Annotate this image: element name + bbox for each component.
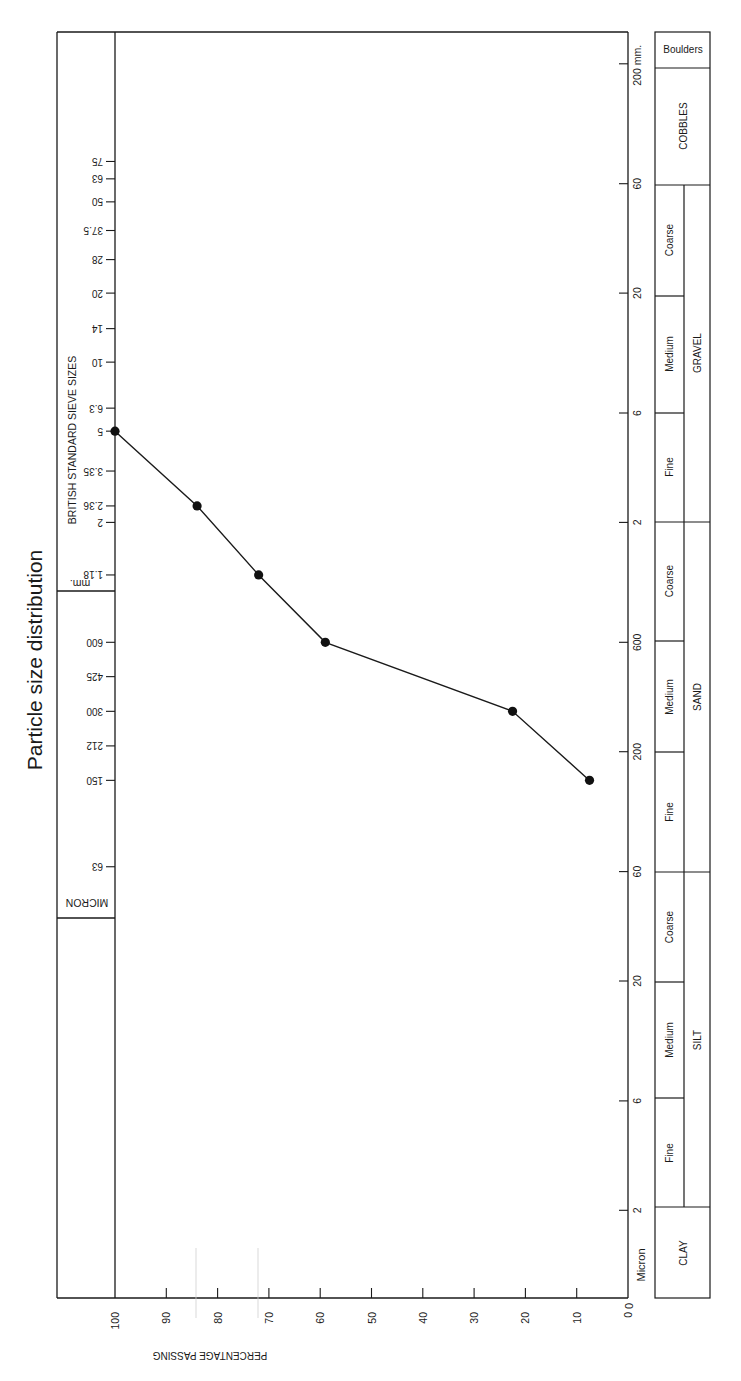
sieve-tick-label: 600 [86,637,103,648]
grading-points [110,427,594,785]
sieve-tick-label: 5 [97,426,103,437]
grading-curve [115,431,590,780]
zero-label: 0 [623,1303,635,1309]
data-point [321,638,330,647]
sieve-tick-label: 50 [91,196,103,207]
pct-tick-label: 30 [468,1312,480,1324]
size-tick-label: 20 [631,287,643,299]
sieve-tick-label: 425 [86,671,103,682]
size-scale-ticks: 200 mm.602062600200602062 [619,45,643,1213]
class-gravel-medium: Medium [664,336,675,372]
class-silt-coarse: Coarse [664,910,675,943]
class-silt: SILT [692,1030,703,1050]
sieve-tick-label: 75 [91,156,103,167]
class-sand-medium: Medium [664,679,675,715]
soil-classification-column [655,32,710,1298]
class-clay: CLAY [678,1240,689,1266]
size-tick-label: 600 [631,633,643,651]
class-cobbles: COBBLES [678,102,689,150]
pct-tick-label: 20 [519,1312,531,1324]
sieve-tick-label: 20 [91,288,103,299]
pct-tick-label: 10 [571,1312,583,1324]
sieve-tick-label: 63 [91,861,103,872]
pct-tick-label: 60 [314,1312,326,1324]
class-silt-fine: Fine [664,1143,675,1163]
size-tick-label: 60 [631,178,643,190]
class-gravel-fine: Fine [664,457,675,477]
sieve-tick-label: 2 [97,517,103,528]
sieve-tick-label: 1.18 [83,569,103,580]
class-gravel: GRAVEL [692,333,703,373]
size-tick-label: 20 [631,975,643,987]
data-point [508,707,517,716]
size-tick-label: 200 [631,743,643,761]
class-sand: SAND [692,683,703,711]
pct-tick-label: 100 [109,1312,121,1330]
size-tick-label: 60 [631,866,643,878]
sieve-tick-label: 37.5 [83,225,103,236]
class-sand-fine: Fine [664,802,675,822]
micron-scale-label: Micron [635,1248,647,1281]
sieve-tick-label: 28 [91,254,103,265]
pct-tick-label: 50 [366,1312,378,1324]
data-point [192,501,201,510]
sieve-tick-label: 14 [91,323,103,334]
percentage-axis-title: PERCENTAGE PASSING [152,1350,267,1361]
class-sand-coarse: Coarse [664,564,675,597]
pct-tick-label: 40 [417,1312,429,1324]
sieve-tick-label: 212 [86,740,103,751]
faint-guide-lines [196,1248,258,1318]
percentage-axis-ticks: 1009080706050403020100 [109,1288,634,1330]
size-tick-label: 2 [631,519,643,525]
sieve-tick-label: 6.3 [89,403,103,414]
chart-title: Particle size distribution [23,550,46,771]
pct-tick-label: 80 [212,1312,224,1324]
size-tick-label: 200 mm. [631,45,643,86]
size-tick-label: 6 [631,410,643,416]
particle-size-chart: Particle size distribution BRITISH STAND… [0,0,741,1381]
class-boulders: Boulders [663,44,702,55]
sieve-tick-label: 150 [86,775,103,786]
sieve-tick-label: 3.35 [83,466,103,477]
class-gravel-coarse: Coarse [664,223,675,256]
pct-tick-label: 0 [622,1312,634,1318]
size-tick-label: 6 [631,1098,643,1104]
data-point [110,427,119,436]
size-tick-label: 2 [631,1207,643,1213]
sieve-tick-label: 300 [86,706,103,717]
sieve-axis-title: BRITISH STANDARD SIEVE SIZES [66,356,78,524]
micron-unit-label: MICRON [66,897,109,909]
sieve-tick-label: 63 [91,173,103,184]
pct-tick-label: 90 [160,1312,172,1324]
sieve-tick-label: 2.36 [83,500,103,511]
plot-frame [57,32,628,1298]
data-point [585,776,594,785]
pct-tick-label: 70 [263,1312,275,1324]
data-point [254,570,263,579]
class-silt-medium: Medium [664,1022,675,1058]
sieve-size-ticks: 75635037.5282014106.353.352.3621.1860042… [83,156,115,872]
sieve-tick-label: 10 [91,357,103,368]
